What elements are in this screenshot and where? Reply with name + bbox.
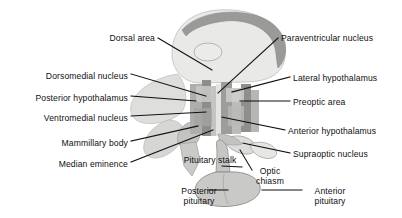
label-lateral-hypothalamus: Lateral hypothalamus — [293, 73, 398, 83]
label-anterior-pituitary: Anterior pituitary — [305, 186, 355, 206]
label-posterior-hypothalamus: Posterior hypothalamus — [12, 93, 128, 103]
label-preoptic-area: Preoptic area — [293, 97, 366, 107]
label-paraventricular-nucleus: Paraventricular nucleus — [281, 33, 398, 43]
thalamus-shape — [194, 43, 222, 61]
nucleus-block-lower-right — [228, 106, 244, 126]
label-supraoptic-nucleus: Supraoptic nucleus — [293, 149, 390, 159]
third-ventricle-slot — [216, 84, 221, 136]
label-mammillary-body: Mammillary body — [42, 138, 128, 148]
optic-nerve-shape — [250, 142, 277, 158]
label-median-eminence: Median eminence — [42, 159, 128, 169]
label-posterior-pituitary: Posterior pituitary — [173, 186, 225, 206]
label-anterior-hypothalamus: Anterior hypothalamus — [288, 126, 398, 136]
hypothalamus-diagram: Dorsal areaDorsomedial nucleusPosterior … — [0, 0, 402, 218]
label-optic-chiasm: Optic chiasm — [252, 166, 288, 186]
label-dorsal-area: Dorsal area — [88, 33, 155, 43]
hypothalamic-nuclei-group — [190, 80, 259, 136]
label-ventromedial-nucleus: Ventromedial nucleus — [20, 113, 128, 123]
label-pituitary-stalk: Pituitary stalk — [182, 155, 238, 165]
label-dorsomedial-nucleus: Dorsomedial nucleus — [24, 71, 128, 81]
nucleus-band-7 — [251, 90, 259, 132]
nucleus-block-lower-left — [194, 108, 212, 126]
